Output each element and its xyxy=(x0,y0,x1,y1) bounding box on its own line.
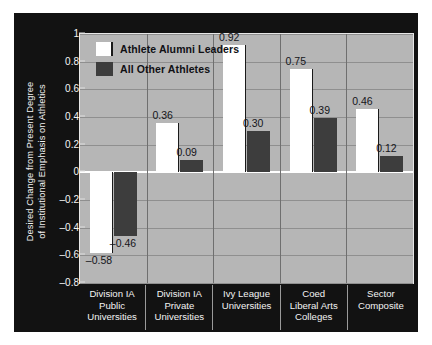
category-separator xyxy=(346,34,347,283)
x-axis-category-label: Sector Composite xyxy=(348,285,414,330)
y-tick-label: 0.2 xyxy=(54,138,79,149)
y-tick-label: –0.8 xyxy=(54,277,79,288)
bar xyxy=(314,118,337,172)
bar xyxy=(180,160,203,172)
y-tick-mark xyxy=(79,254,85,255)
y-tick-label: –0.6 xyxy=(54,249,79,260)
bar xyxy=(290,69,313,173)
y-axis-tick-labels: 10.80.60.40.20–0.2–0.4–0.6–0.8 xyxy=(54,13,79,332)
y-axis-title-container: Desired Change from Present Degree of In… xyxy=(14,13,54,332)
y-tick-label: –0.4 xyxy=(54,221,79,232)
plot-area: –0.58–0.460.360.090.920.300.750.390.460.… xyxy=(79,33,414,284)
bar xyxy=(114,172,137,236)
x-axis-category-label: Ivy League Universities xyxy=(213,285,280,330)
bar xyxy=(380,156,403,173)
x-axis-category-labels: Division IA Public UniversitiesDivision … xyxy=(79,285,414,330)
y-tick-mark xyxy=(79,143,85,144)
bar-value-label: 0.46 xyxy=(352,95,372,107)
legend-label-all-other-athletes: All Other Athletes xyxy=(120,63,210,75)
y-tick-mark xyxy=(79,116,85,117)
y-tick-mark xyxy=(79,60,85,61)
bar-value-label: 0.30 xyxy=(243,117,263,129)
bar-value-label: 0.75 xyxy=(286,55,306,67)
bar-value-label: 0.09 xyxy=(176,146,196,158)
y-tick-mark xyxy=(79,282,85,283)
gridline xyxy=(80,34,413,35)
bar xyxy=(247,131,270,173)
bar-value-label: 0.39 xyxy=(310,104,330,116)
legend-label-athlete-alumni-leaders: Athlete Alumni Leaders xyxy=(120,43,239,55)
y-tick-label: 0.6 xyxy=(54,83,79,94)
bar-value-label: 0.12 xyxy=(376,142,396,154)
y-tick-label: 0.4 xyxy=(54,111,79,122)
bar-value-label: 0.36 xyxy=(152,109,172,121)
chart-frame: Desired Change from Present Degree of In… xyxy=(14,13,418,332)
gridline xyxy=(80,255,413,256)
y-tick-mark xyxy=(79,33,85,34)
y-tick-label: 0.8 xyxy=(54,55,79,66)
y-tick-mark xyxy=(79,226,85,227)
bar-value-label: –0.58 xyxy=(86,254,112,266)
y-tick-label: –0.2 xyxy=(54,194,79,205)
y-axis-title: Desired Change from Present Degree of In… xyxy=(25,37,48,287)
bar xyxy=(356,109,379,173)
x-axis-category-label: Division IA Public Universities xyxy=(79,285,146,330)
x-axis-category-label: Coed Liberal Arts Colleges xyxy=(281,285,348,330)
y-tick-mark xyxy=(79,199,85,200)
gridline xyxy=(80,89,413,90)
legend: Athlete Alumni Leaders All Other Athlete… xyxy=(96,40,281,80)
y-tick-label: 1 xyxy=(54,28,79,39)
legend-item-0: Athlete Alumni Leaders xyxy=(96,40,281,57)
bar-value-label: –0.46 xyxy=(110,237,136,249)
y-tick-mark xyxy=(79,171,85,172)
y-tick-label: 0 xyxy=(54,166,79,177)
gridline xyxy=(80,283,413,284)
chart-figure: Desired Change from Present Degree of In… xyxy=(0,0,432,345)
legend-swatch-athlete-alumni-leaders xyxy=(96,42,113,56)
legend-swatch-all-other-athletes xyxy=(96,62,113,76)
y-tick-mark xyxy=(79,88,85,89)
legend-item-1: All Other Athletes xyxy=(96,60,281,77)
x-axis-category-label: Division IA Private Universities xyxy=(146,285,213,330)
